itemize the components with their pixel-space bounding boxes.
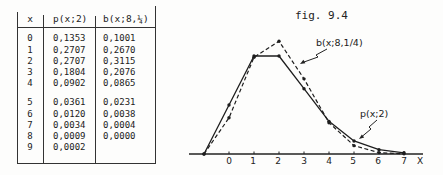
data-point [227,103,230,106]
data-point [302,77,305,80]
poisson-annotation-label: p(x;2) [360,108,388,119]
series-binomial-line [204,41,404,154]
data-point [377,148,380,151]
binomial-arrowhead-icon [300,60,305,64]
x-tick-label: 6 [375,156,381,166]
binomial-leader-arrow-icon [304,49,327,62]
data-point [352,144,355,147]
x-tick-label: 0 [226,156,232,166]
data-point [227,116,230,119]
binomial-annotation-label: b(x;8,1/4) [316,37,363,48]
x-tick-label: 5 [350,156,356,166]
data-point [352,139,355,142]
data-point [402,152,405,155]
x-tick-label: 3 [301,156,307,166]
x-tick-labels: 0 1 2 3 4 5 6 7 X [226,156,423,166]
line-chart: 0 1 2 3 4 5 6 7 X b(x;8,1/4) p(x;2) [0,0,443,175]
x-axis-label: X [417,156,423,166]
x-tick-label: 7 [401,156,407,166]
data-point [377,151,380,154]
data-point [327,121,330,124]
series-poisson-line [204,56,404,154]
data-point [277,40,280,43]
poisson-leader-arrow-icon [362,120,377,137]
data-point [277,54,280,57]
data-point [302,87,305,90]
data-point [252,56,255,59]
x-tick-label: 4 [326,156,332,166]
data-point [202,152,205,155]
x-tick-label: 1 [250,156,256,166]
x-tick-label: 2 [275,156,281,166]
